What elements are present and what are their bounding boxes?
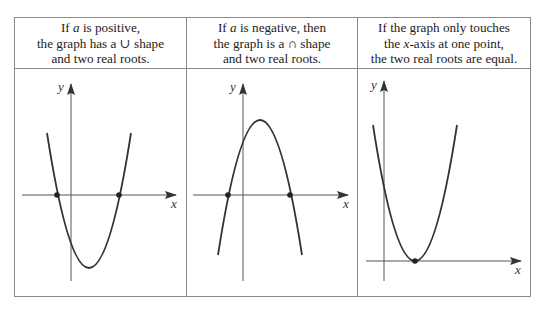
graph-touching: y x [366, 77, 521, 281]
parabola-curve [47, 133, 131, 268]
root-point [225, 192, 231, 198]
root-point [116, 192, 122, 198]
double-root-point [412, 258, 418, 264]
parabola-curve [373, 125, 457, 261]
y-axis-label: y [369, 77, 377, 92]
y-axis-label: y [56, 79, 64, 94]
parabola-curve [218, 120, 302, 255]
graph-negative: y x [193, 79, 349, 281]
x-axis-label: x [342, 196, 349, 211]
root-point [287, 192, 293, 198]
graph-positive: y x [22, 79, 177, 281]
x-axis-label: x [170, 196, 177, 211]
graphs-svg: y x y x y x [0, 0, 546, 309]
x-axis-label: x [514, 262, 521, 277]
root-point [54, 192, 60, 198]
y-axis-label: y [228, 79, 236, 94]
